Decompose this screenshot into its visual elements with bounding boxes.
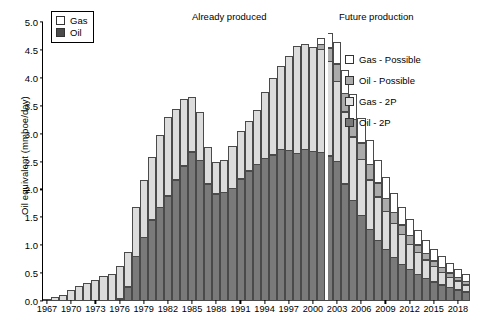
segment-gas2p [156,135,164,208]
bar-2016 [438,22,446,300]
segment-oil2p [148,220,156,301]
x-tick-label: 2000 [303,304,323,314]
segment-oil2p [301,149,309,301]
x-tick-mark [143,300,144,304]
square-outline-icon [56,16,65,25]
segment-oil2p [204,184,212,301]
segment-gas2p [446,277,454,288]
segment-oil2p [446,287,454,300]
legend-item-gas-2p: Gas - 2P [345,96,421,108]
segment-gasposs [414,230,422,245]
segment-oil2p [374,240,382,300]
segment-gasposs [374,160,382,183]
segment-gas2p [317,49,325,153]
bar-2014 [422,22,430,300]
y-tick-mark [40,49,44,50]
x-tick-label: 2006 [351,304,371,314]
segment-gas2p [188,97,196,153]
x-tick-mark [288,300,289,304]
bar-1970 [67,22,75,300]
segment-oil2p [164,196,172,301]
bar-1981 [156,22,164,300]
y-tick-mark [40,273,44,274]
segment-gas2p [75,286,83,301]
segment-oilposs [374,183,382,198]
segment-gas2p [91,280,99,301]
bar-2019 [462,22,470,300]
bar-1971 [75,22,83,300]
segment-gasposs [366,140,374,165]
bar-1983 [172,22,180,300]
segment-oil2p [132,256,140,301]
segment-oil2p [317,152,325,300]
segment-oil2p [212,194,220,301]
bar-1999 [301,22,309,300]
x-tick-label: 2009 [375,304,395,314]
legend-item-gas-2p-label: Gas - 2P [359,96,397,108]
segment-oilposs [333,64,341,82]
x-tick-label: 2015 [424,304,444,314]
bar-1997 [285,22,293,300]
segment-gasposs [406,219,414,236]
segment-oilposs [366,164,374,180]
y-tick-mark [40,105,44,106]
segment-oil2p [366,229,374,300]
bar-1972 [83,22,91,300]
segment-oil2p [269,155,277,301]
x-tick-mark [119,300,120,304]
y-tick-mark [40,133,44,134]
y-tick-mark [40,189,44,190]
segment-oil2p [196,160,204,301]
segment-oil2p [438,285,446,301]
segment-gas2p [108,274,116,301]
segment-gas2p [398,234,406,264]
segment-gas2p [245,121,253,171]
x-tick-label: 1973 [85,304,105,314]
bar-1994 [261,22,269,300]
legend-main: Gas Oil [51,11,94,43]
annotation-already-produced: Already produced [192,11,266,22]
x-tick-label: 2012 [399,304,419,314]
chart-root: Oil equivalent (mmboe/day) 0.00.51.01.52… [0,0,491,322]
segment-oil2p [180,166,188,301]
segment-gas2p [366,180,374,230]
x-tick-mark [312,300,313,304]
segment-oil2p [293,153,301,301]
segment-gas2p [180,99,188,167]
production-divider [325,22,328,300]
bar-1992 [245,22,253,300]
segment-gas2p [301,44,309,150]
x-tick-mark [240,300,241,304]
x-tick-mark [264,300,265,304]
bar-2018 [454,22,462,300]
segment-oil2p [422,278,430,301]
y-tick-mark [40,217,44,218]
segment-gas2p [374,197,382,242]
y-tick-mark [40,245,44,246]
segment-gasposs [333,42,341,64]
segment-oil2p [382,249,390,300]
segment-oil2p [188,152,196,301]
segment-gas2p [116,266,124,299]
segment-oil2p [261,158,269,301]
x-tick-mark [46,300,47,304]
segment-gas2p [124,252,132,287]
legend-item-oil-possible-label: Oil - Possible [359,75,415,87]
x-tick-mark [95,300,96,304]
annotation-future-production: Future production [339,11,413,22]
segment-gas2p [212,162,220,194]
bar-1973 [91,22,99,300]
segment-gas2p [333,81,341,162]
bar-1976 [116,22,124,300]
bar-1982 [164,22,172,300]
segment-gas2p [406,244,414,270]
x-tick-mark [385,300,386,304]
x-tick-mark [167,300,168,304]
x-tick-mark [433,300,434,304]
segment-gas2p [277,66,285,150]
segment-oil2p [156,207,164,301]
segment-oil2p [430,282,438,301]
y-tick-mark [40,300,44,301]
segment-oil2p [309,151,317,301]
x-tick-label: 1979 [133,304,153,314]
